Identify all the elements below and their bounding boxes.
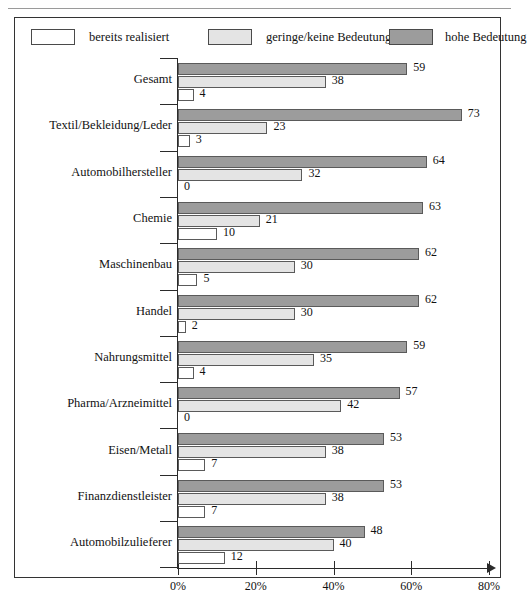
bar-geringe-keine-bedeutung: [178, 446, 326, 458]
chart-group: Pharma/Arzneimittel57420: [15, 382, 502, 428]
bar-value-label: 73: [468, 106, 480, 121]
bar-hohe-bedeutung: [178, 433, 384, 445]
bar-value-label: 23: [273, 119, 285, 134]
bar-value-label: 42: [347, 397, 359, 412]
bar-value-label: 59: [413, 338, 425, 353]
bar-value-label: 62: [425, 245, 437, 260]
chart-group: Textil/Bekleidung/Leder73233: [15, 104, 502, 150]
bar-bereits-realisiert: [178, 228, 217, 240]
bar-row: 38: [178, 76, 489, 88]
bar-geringe-keine-bedeutung: [178, 261, 295, 273]
bar-row: 4: [178, 367, 489, 379]
bar-row: 73: [178, 109, 489, 121]
bar-value-label: 35: [320, 351, 332, 366]
category-tick: [160, 243, 178, 244]
bar-hohe-bedeutung: [178, 295, 419, 307]
bar-row: 59: [178, 341, 489, 353]
bar-hohe-bedeutung: [178, 526, 365, 538]
legend-swatch-hohe: [389, 29, 433, 45]
bar-value-label: 53: [390, 477, 402, 492]
bar-row: 62: [178, 248, 489, 260]
category-tick: [160, 521, 178, 522]
legend-label-hohe: hohe Bedeutung: [445, 28, 527, 46]
chart-group: Eisen/Metall53387: [15, 428, 502, 474]
bar-row: 38: [178, 446, 489, 458]
chart-legend: bereits realisiert geringe/keine Bedeutu…: [15, 27, 502, 55]
category-tick: [160, 382, 178, 383]
bar-row: 57: [178, 387, 489, 399]
category-tick: [160, 428, 178, 429]
bar-value-label: 2: [192, 318, 198, 333]
x-axis-tick-label: 60%: [400, 579, 422, 591]
chart-group: Maschinenbau62305: [15, 243, 502, 289]
bar-bereits-realisiert: [178, 274, 197, 286]
bar-hohe-bedeutung: [178, 341, 407, 353]
bar-row: 42: [178, 400, 489, 412]
category-tick: [160, 197, 178, 198]
bar-value-label: 4: [200, 86, 206, 101]
bar-value-label: 30: [301, 305, 313, 320]
bar-hohe-bedeutung: [178, 480, 384, 492]
legend-label-realisiert: bereits realisiert: [89, 28, 169, 46]
legend-label-gering: geringe/keine Bedeutung: [266, 28, 391, 46]
category-label: Automobilhersteller: [71, 165, 172, 180]
bar-row: 64: [178, 156, 489, 168]
chart-group: Finanzdienstleister53387: [15, 475, 502, 521]
category-tick: [160, 104, 178, 105]
bar-hohe-bedeutung: [178, 202, 423, 214]
bar-value-label: 4: [200, 364, 206, 379]
bar-value-label: 21: [266, 212, 278, 227]
category-label: Nahrungsmittel: [94, 350, 172, 365]
bar-value-label: 38: [332, 443, 344, 458]
category-label: Textil/Bekleidung/Leder: [49, 118, 172, 133]
category-label: Handel: [136, 304, 172, 319]
bar-value-label: 62: [425, 292, 437, 307]
bar-geringe-keine-bedeutung: [178, 493, 326, 505]
top-divider: [8, 8, 511, 9]
bar-bereits-realisiert: [178, 89, 194, 101]
bar-value-label: 38: [332, 73, 344, 88]
bar-geringe-keine-bedeutung: [178, 215, 260, 227]
bar-value-label: 38: [332, 490, 344, 505]
bar-hohe-bedeutung: [178, 63, 407, 75]
plot-area: 0%20%40%60%80%Gesamt59384Textil/Bekleidu…: [15, 56, 502, 576]
category-tick: [160, 475, 178, 476]
bar-row: 5: [178, 274, 489, 286]
category-label: Gesamt: [134, 72, 172, 87]
chart-frame: bereits realisiert geringe/keine Bedeutu…: [14, 17, 501, 578]
category-tick: [160, 567, 178, 568]
bar-geringe-keine-bedeutung: [178, 539, 334, 551]
bar-bereits-realisiert: [178, 459, 205, 471]
bar-value-label: 3: [196, 132, 202, 147]
chart-group: Handel62302: [15, 290, 502, 336]
category-label: Finanzdienstleister: [78, 489, 172, 504]
category-label: Eisen/Metall: [108, 443, 172, 458]
bar-value-label: 53: [390, 430, 402, 445]
bar-row: 32: [178, 169, 489, 181]
bar-bereits-realisiert: [178, 367, 194, 379]
bar-bereits-realisiert: [178, 321, 186, 333]
bar-value-label: 30: [301, 258, 313, 273]
chart-group: Chemie632110: [15, 197, 502, 243]
bar-value-label: 32: [308, 166, 320, 181]
bar-bereits-realisiert: [178, 552, 225, 564]
bar-hohe-bedeutung: [178, 248, 419, 260]
bar-row: 23: [178, 122, 489, 134]
bar-value-label: 59: [413, 60, 425, 75]
bar-row: 0: [178, 413, 489, 425]
bar-row: 30: [178, 261, 489, 273]
bar-hohe-bedeutung: [178, 156, 427, 168]
bar-row: 10: [178, 228, 489, 240]
bar-value-label: 5: [203, 271, 209, 286]
bar-row: 4: [178, 89, 489, 101]
category-tick: [160, 151, 178, 152]
bar-value-label: 0: [184, 179, 190, 194]
bar-row: 0: [178, 182, 489, 194]
bar-value-label: 12: [231, 549, 243, 564]
bar-value-label: 48: [371, 523, 383, 538]
bar-hohe-bedeutung: [178, 387, 400, 399]
chart-group: Automobilhersteller64320: [15, 151, 502, 197]
x-axis-tick-label: 80%: [478, 579, 500, 591]
x-axis-tick-label: 40%: [323, 579, 345, 591]
